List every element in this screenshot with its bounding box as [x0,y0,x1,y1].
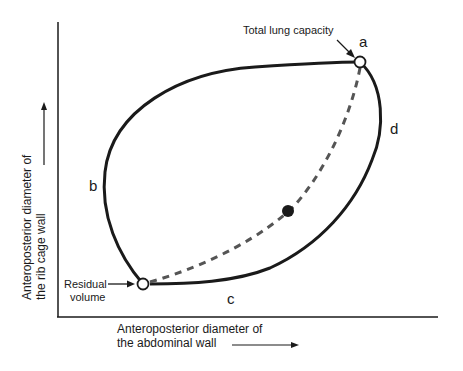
resting-point-dot [282,205,294,217]
diagram-canvas [0,0,463,371]
y-axis-label-line1: Anteroposterior diameter of [20,40,34,300]
point-a-letter: a [359,34,367,49]
y-axis-label-line2: the rib cage wall [34,40,48,300]
tlc-point [355,57,366,68]
x-label-arrow-head [291,342,299,348]
x-axis-label-line2: the abdominal wall [117,336,262,350]
curve-b [104,62,360,284]
curve-b-letter: b [89,178,97,193]
x-axis-label: Anteroposterior diameter of the abdomina… [117,322,262,350]
y-axis-label: Anteroposterior diameter of the rib cage… [20,40,48,300]
curve-d-c [150,62,381,284]
curve-d-letter: d [390,121,398,136]
curve-c-letter: c [227,291,235,306]
rv-arrow-head [127,281,135,288]
dashed-relaxation-curve [150,68,360,282]
rv-point [138,279,149,290]
rv-label-line2: volume [70,291,105,303]
x-axis-label-line1: Anteroposterior diameter of [117,322,262,336]
rv-label-line1: Residual [64,278,107,290]
tlc-label: Total lung capacity [243,24,334,36]
